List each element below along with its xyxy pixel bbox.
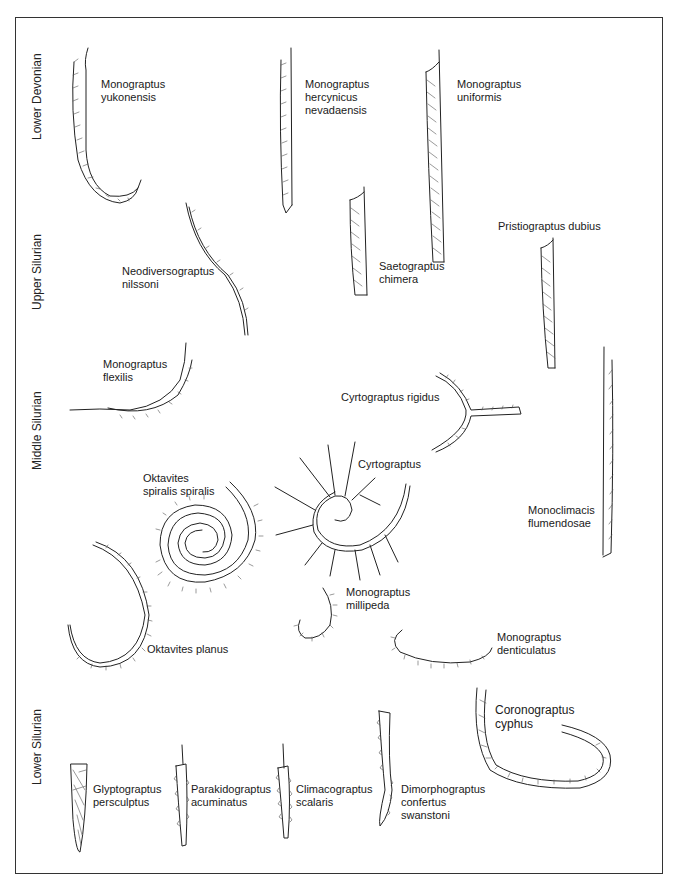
fossil-cyrtograptus-rigidus: [432, 373, 521, 452]
fossil-parakidograptus-acuminatus: [174, 745, 189, 846]
fossil-glyptograptus-persculptus: [71, 764, 87, 852]
fossil-monograptus-denticulatus: [391, 630, 492, 668]
fossil-monograptus-hercynicus-nevadaensis: [280, 48, 292, 213]
fossil-climacograptus-scalaris: [276, 744, 292, 838]
fossil-cyrtograptus: [275, 442, 410, 580]
fossil-oktavites-spiralis-spiralis: [156, 482, 263, 593]
fossil-monograptus-yukonensis: [73, 48, 141, 203]
fossil-monograptus-uniformis: [426, 50, 444, 262]
fossil-coronograptus-cyphus: [476, 688, 611, 788]
fossil-monograptus-millipeda: [294, 588, 337, 641]
fossil-pristiograptus-dubius: [541, 238, 555, 368]
fossil-monograptus-flexilis: [70, 343, 192, 419]
fossil-neodiversograptus-nilssoni: [186, 203, 248, 335]
fossil-drawings: [0, 0, 677, 891]
fossil-dimorphograptus-confertus-swanstoni: [377, 711, 393, 826]
fossil-monoclimacis-flumendosae: [603, 347, 613, 557]
fossil-saetograptus-chimera: [350, 187, 367, 295]
fossil-oktavites-planus: [68, 542, 152, 670]
